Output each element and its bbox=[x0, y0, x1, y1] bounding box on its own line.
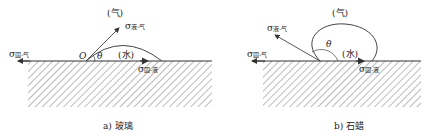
solid-surface-hatch bbox=[263, 61, 421, 107]
panel-b-paraffin bbox=[252, 24, 421, 107]
solid-surface-hatch bbox=[28, 61, 212, 107]
sigma-liquid-gas-arrow bbox=[86, 28, 119, 61]
sigma-subscript: 固-气 bbox=[15, 51, 29, 58]
gas-label-b: (气) bbox=[332, 9, 348, 18]
caption-a: a) 玻璃 bbox=[103, 119, 133, 132]
sigma-subscript: 固-液 bbox=[144, 66, 158, 73]
sigma-solid-gas-label-a: σ固-气 bbox=[9, 50, 29, 59]
contact-angle-arc bbox=[93, 55, 95, 61]
sigma-liquid-gas-label-b: σ液-气 bbox=[267, 24, 287, 33]
gas-label-a: (气) bbox=[107, 9, 123, 18]
liquid-label-b: (水) bbox=[342, 50, 358, 59]
sigma-subscript: 固-气 bbox=[253, 51, 267, 58]
sigma-solid-liquid-label-a: σ固-液 bbox=[138, 65, 158, 74]
sigma-subscript: 液-气 bbox=[131, 23, 145, 30]
sigma-solid-gas-label-b: σ固-气 bbox=[247, 50, 267, 59]
angle-label-b: θ bbox=[326, 40, 331, 49]
sigma-solid-liquid-label-b: σ固-液 bbox=[359, 65, 379, 74]
caption-b: b) 石蜡 bbox=[334, 119, 364, 132]
sigma-subscript: 液-气 bbox=[273, 25, 287, 32]
sigma-liquid-gas-label-a: σ液-气 bbox=[125, 22, 145, 31]
panel-a-glass bbox=[18, 28, 212, 107]
angle-label-a: θ bbox=[97, 52, 102, 61]
sigma-subscript: 固-液 bbox=[365, 66, 379, 73]
liquid-label-a: (水) bbox=[118, 51, 134, 60]
origin-label-a: O bbox=[79, 52, 86, 61]
